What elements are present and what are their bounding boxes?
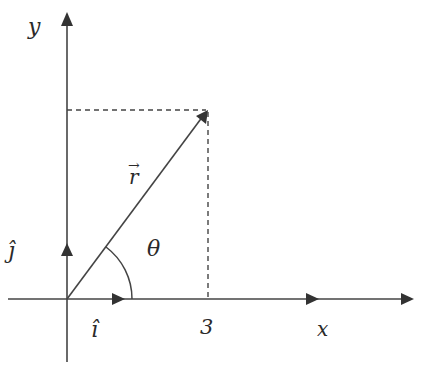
r-vector [67,116,203,299]
x-tick-label-3: 3 [200,315,213,339]
y-axis-arrowhead-icon [61,12,73,26]
theta-arc [106,247,132,299]
vector-diagram: y x r → θ î ĵ 3 [0,0,424,367]
vector-r-arrow: → [128,157,140,173]
unit-j-arrowhead-icon [61,243,73,256]
x-axis-label: x [317,317,328,341]
x-axis-mid-arrowhead-icon [306,293,319,305]
unit-i-arrowhead-icon [112,293,125,305]
unit-j-label: ĵ [4,238,16,263]
x-axis-arrowhead-icon [401,293,414,305]
y-axis-label: y [27,14,41,39]
angle-theta-label: θ [147,236,160,261]
unit-i-label: î [91,317,100,342]
